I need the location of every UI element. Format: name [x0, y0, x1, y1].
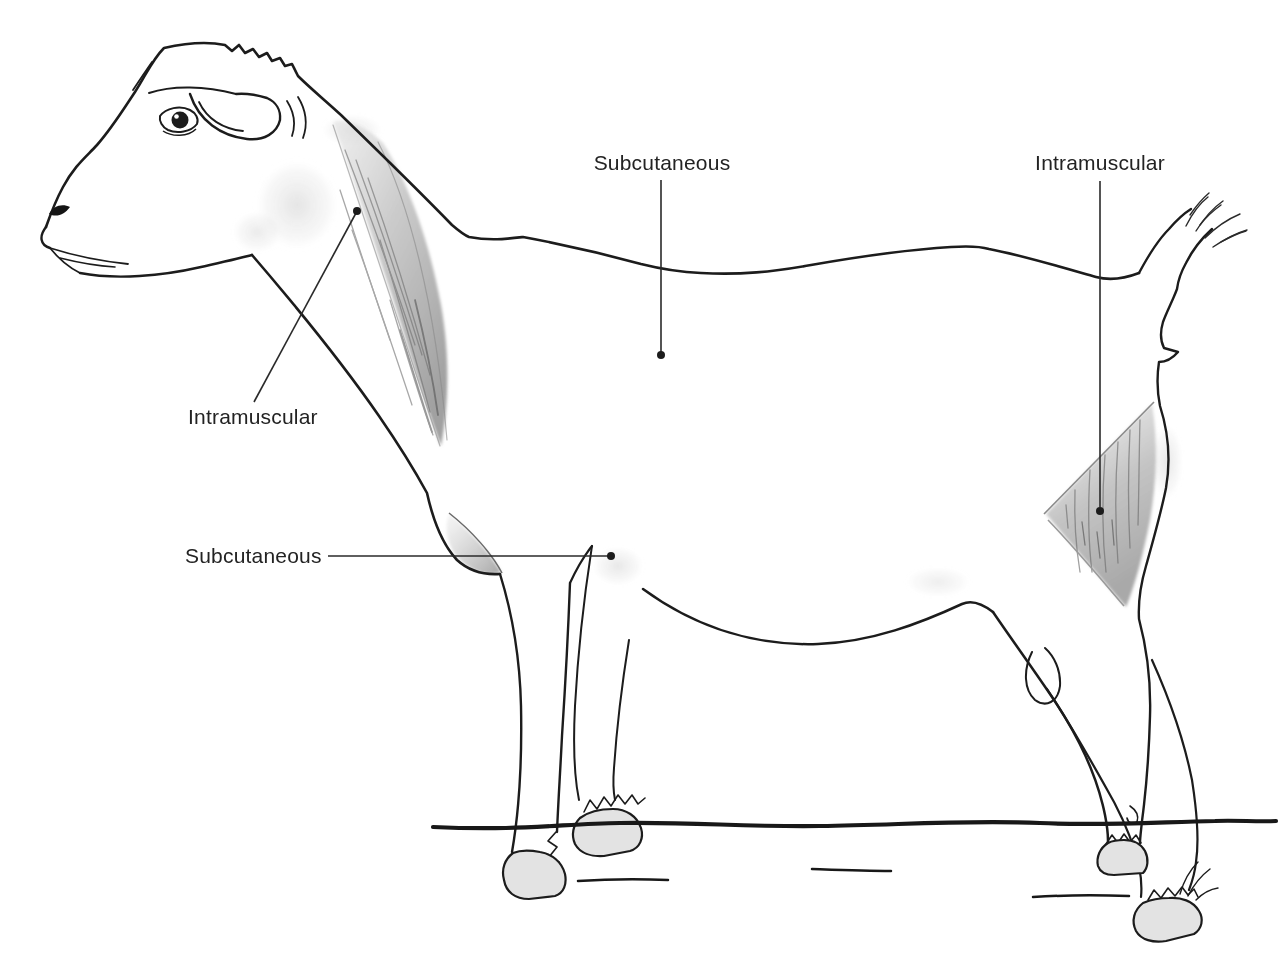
far-hind-hoof	[1134, 898, 1202, 942]
near-hind-leg-curl	[1127, 806, 1138, 823]
ground-dash-1	[578, 879, 668, 881]
tail-inner-and-rear-edge	[1139, 229, 1212, 843]
label-intramuscular-neck: Intramuscular	[188, 405, 318, 428]
neck-intramuscular-shading	[333, 121, 447, 446]
ear-back-arc-1	[287, 101, 294, 136]
label-subcutaneous-elbow: Subcutaneous	[185, 544, 322, 567]
elbow-crescent-fill	[447, 514, 501, 574]
teat	[1026, 648, 1060, 704]
goat-injection-sites-diagram: Subcutaneous Intramuscular Intramuscular…	[0, 0, 1280, 971]
flank-shading	[904, 566, 972, 598]
ground-dash-3	[1033, 895, 1129, 897]
label-intramuscular-thigh: Intramuscular	[1035, 151, 1165, 174]
injection-site-dot-subcutaneous-top	[657, 351, 665, 359]
tail-hair-tuft	[1186, 193, 1247, 247]
girth-shading	[591, 545, 645, 587]
injection-site-dot-subcutaneous-elbow	[607, 552, 615, 560]
far-hind-leg-rear-edge	[1152, 660, 1197, 890]
tail-outer-edge	[1139, 209, 1191, 273]
injection-site-dot-intramuscular-neck	[353, 207, 361, 215]
near-front-leg-front-edge	[500, 574, 521, 852]
near-hind-leg-front-edge	[993, 612, 1108, 841]
ear-inner-fold	[199, 102, 243, 131]
far-hind-hoof-hair-3	[1196, 888, 1218, 900]
neck-muscle-fill	[333, 121, 447, 446]
injection-site-dot-intramuscular-thigh	[1096, 507, 1104, 515]
brow-line	[149, 87, 236, 94]
topline	[46, 43, 1139, 279]
near-front-hoof	[503, 851, 566, 899]
label-subcutaneous-top: Subcutaneous	[594, 151, 731, 174]
near-hind-hoof	[1097, 840, 1147, 875]
goat-eye-glint	[174, 114, 179, 119]
ground-line	[433, 821, 1276, 829]
elbow-subcutaneous-shading	[447, 513, 502, 574]
far-front-leg-front-edge	[574, 546, 592, 800]
forehead-inner-line	[133, 62, 152, 90]
goat-illustration: Subcutaneous Intramuscular Intramuscular…	[0, 0, 1280, 971]
far-front-hoof	[573, 809, 642, 856]
goat-nostril	[49, 205, 70, 215]
goat-eye-pupil	[172, 112, 189, 129]
lower-neck-shading	[231, 210, 283, 254]
muzzle-front-lip	[41, 227, 50, 248]
eye-and-nostril	[49, 108, 198, 216]
ear-outline	[190, 94, 280, 140]
near-front-leg-rear-edge	[557, 583, 570, 832]
hooves	[503, 809, 1202, 942]
ear-back-arc-2	[298, 97, 306, 138]
far-front-leg-rear-edge	[613, 640, 629, 800]
ground-dash-2	[812, 869, 891, 871]
injection-site-dots	[353, 207, 1104, 560]
